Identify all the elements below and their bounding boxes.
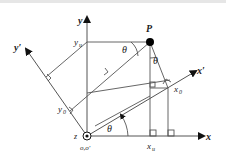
svg-text:x: x <box>146 141 151 151</box>
z-label: z <box>73 132 78 141</box>
svg-text:y: y <box>57 104 62 114</box>
origin-z-symbol <box>83 132 91 140</box>
y-axis-label: y <box>77 15 83 26</box>
x-axis-label: x <box>205 131 211 142</box>
svg-text:0: 0 <box>63 109 66 115</box>
construction-lines <box>46 42 170 136</box>
x-prime-axis <box>87 71 196 136</box>
svg-text:0: 0 <box>179 89 182 95</box>
theta-bottom-label: θ <box>107 123 112 134</box>
angle-arcs <box>121 42 156 136</box>
xu-label: x u <box>146 141 155 152</box>
yu-label: y u <box>73 37 82 48</box>
y-prime-axis <box>26 49 87 136</box>
y-prime-label: y′ <box>13 42 21 53</box>
point-p-label: P <box>146 23 153 34</box>
y0-label: y 0 <box>57 104 66 115</box>
svg-text:x: x <box>173 84 178 94</box>
origin-label: o,o′ <box>80 144 91 152</box>
x0-label: x 0 <box>173 84 182 95</box>
x-prime-label: x′ <box>196 65 205 76</box>
coordinate-rotation-diagram: y x y′ x′ P y u x u x 0 y 0 z o,o′ θ θ θ <box>0 0 226 160</box>
svg-text:u: u <box>79 42 82 48</box>
theta-mid-label: θ <box>153 55 158 66</box>
svg-text:y: y <box>73 37 78 47</box>
theta-top-label: θ <box>122 44 127 55</box>
point-p <box>146 38 154 46</box>
svg-text:u: u <box>152 146 155 152</box>
